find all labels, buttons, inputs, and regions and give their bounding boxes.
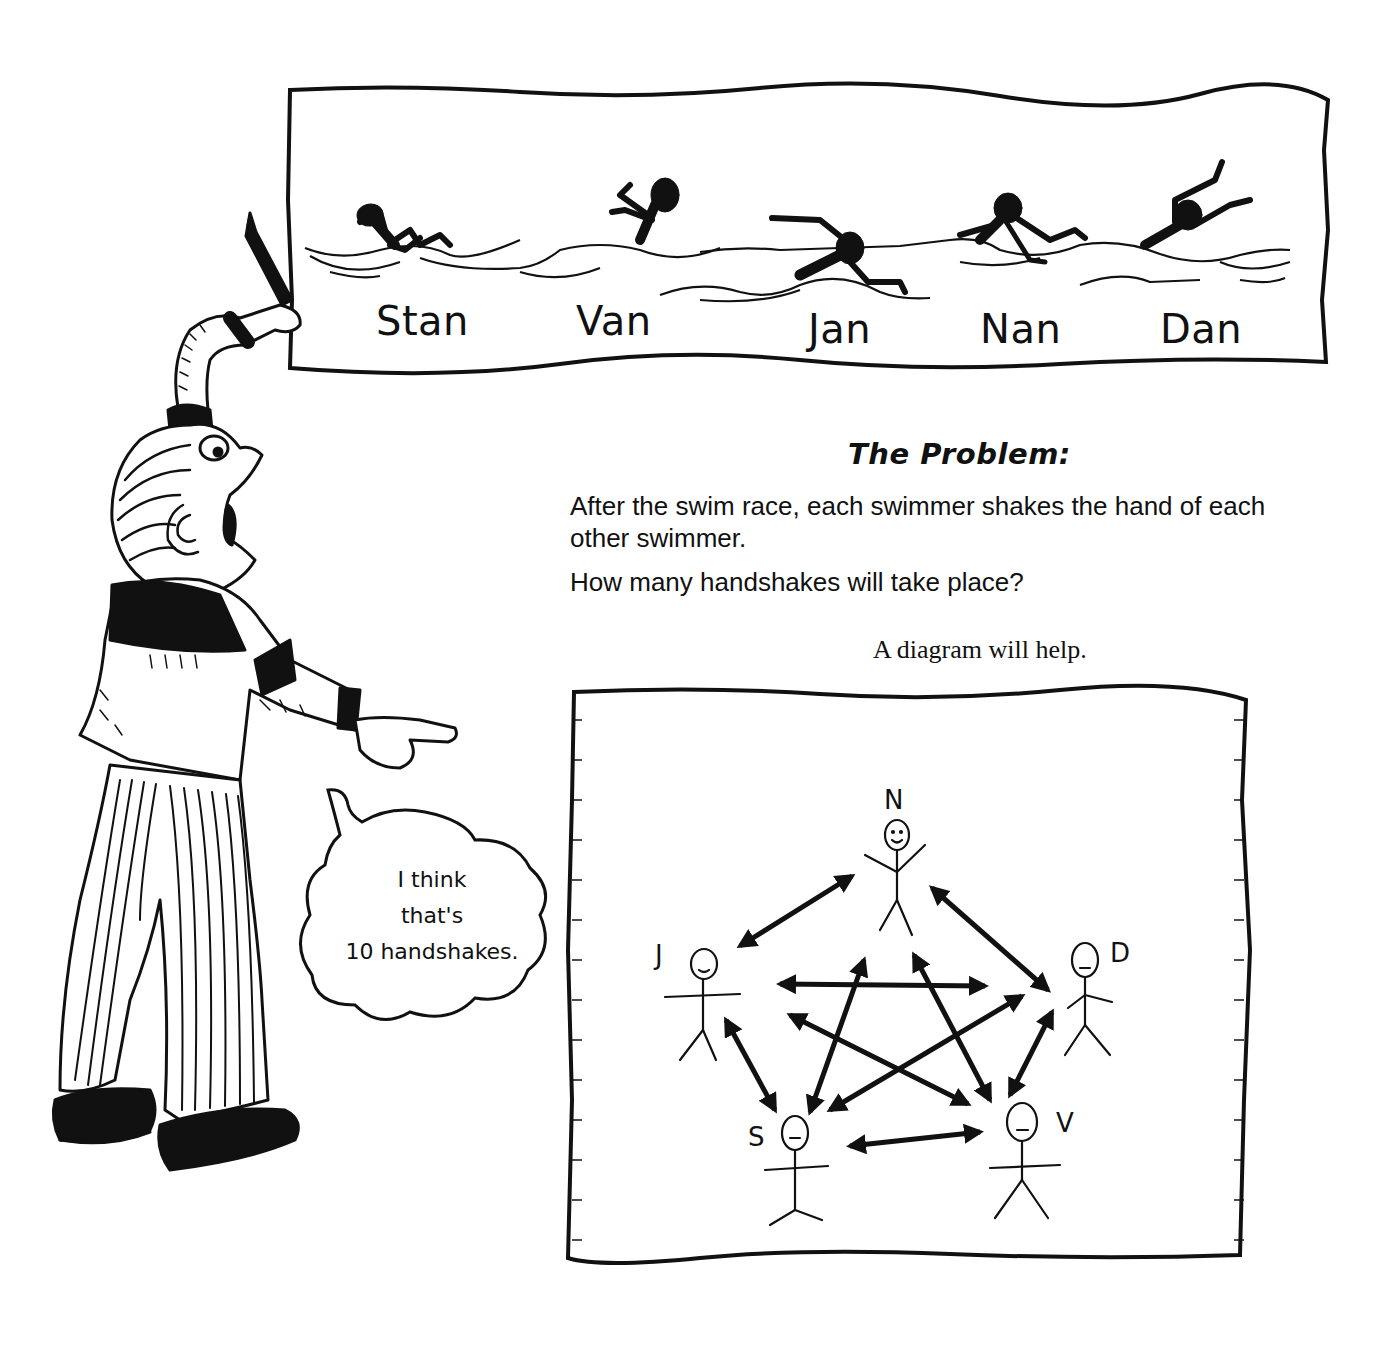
stick-figure-van [990, 1103, 1060, 1218]
edge-j-d [780, 984, 985, 986]
edge-s-d [830, 996, 1022, 1110]
edge-j-s [726, 1020, 775, 1110]
stick-figure-stan [765, 1116, 828, 1225]
handshake-diagram [0, 0, 1396, 1348]
edge-n-v [914, 955, 990, 1100]
edge-s-v [850, 1132, 980, 1146]
node-label-v: V [1056, 1108, 1074, 1138]
node-label-n: N [884, 785, 903, 815]
stick-figure-dan [1065, 943, 1112, 1055]
edge-d-v [1010, 1012, 1052, 1095]
node-label-s: S [748, 1122, 765, 1152]
stick-figure-jan [665, 949, 740, 1060]
stick-figure-nan [865, 820, 925, 935]
node-label-d: D [1110, 938, 1130, 968]
node-label-j: J [655, 940, 663, 970]
edge-n-j [740, 876, 852, 946]
edge-n-d [932, 888, 1048, 990]
